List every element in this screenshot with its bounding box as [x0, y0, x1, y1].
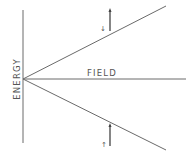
energy-field-diagram: ↓ ↑ FIELD ENERGY	[0, 0, 193, 158]
lower-arrow-icon	[109, 123, 112, 146]
field-label: FIELD	[87, 68, 117, 78]
diagram-svg: ↓ ↑ FIELD ENERGY	[0, 0, 193, 158]
energy-label: ENERGY	[12, 58, 22, 100]
upper-spin-label: ↓	[100, 25, 106, 33]
lower-branch-line	[23, 79, 166, 150]
upper-arrow-icon	[109, 8, 112, 31]
lower-spin-label: ↑	[101, 141, 107, 149]
